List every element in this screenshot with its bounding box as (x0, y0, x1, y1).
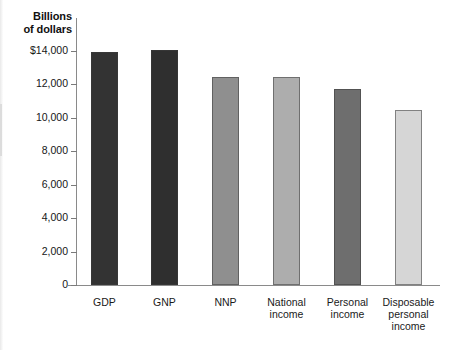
y-tick-mark (71, 285, 77, 286)
y-tick-mark (71, 84, 77, 85)
x-axis-category-label: National income (256, 296, 317, 320)
x-axis-line (68, 285, 440, 286)
y-tick-label: 2,000 (4, 246, 68, 257)
bar (212, 77, 239, 285)
x-axis-category-label: Disposable personal income (378, 296, 439, 332)
y-axis-title-line1: Billions (33, 10, 72, 22)
scan-artifact-mark (0, 104, 2, 156)
y-axis-title: Billionsof dollars (10, 10, 72, 36)
y-tick-label: $14,000 (4, 45, 68, 56)
y-tick-label: 4,000 (4, 212, 68, 223)
bar (273, 77, 300, 285)
y-tick-mark (71, 185, 77, 186)
x-axis-category-label: GNP (134, 296, 195, 308)
bar (395, 110, 422, 285)
x-axis-category-label: GDP (74, 296, 135, 308)
y-tick-label: 0 (4, 279, 68, 290)
y-tick-label: 8,000 (4, 145, 68, 156)
y-tick-mark (71, 51, 77, 52)
y-tick-mark (71, 252, 77, 253)
y-axis-title-line2: of dollars (23, 23, 72, 35)
scan-artifact-edge (0, 0, 3, 350)
bar-chart: Billionsof dollars 02,0004,0006,0008,000… (0, 0, 458, 350)
bar (334, 89, 361, 285)
y-tick-label: 10,000 (4, 112, 68, 123)
x-axis-category-label: Personal income (317, 296, 378, 320)
bar (91, 52, 118, 285)
bar (151, 50, 178, 285)
x-axis-category-label: NNP (195, 296, 256, 308)
y-tick-mark (71, 151, 77, 152)
y-tick-mark (71, 218, 77, 219)
y-tick-label: 12,000 (4, 78, 68, 89)
y-tick-mark (71, 118, 77, 119)
y-tick-label: 6,000 (4, 179, 68, 190)
